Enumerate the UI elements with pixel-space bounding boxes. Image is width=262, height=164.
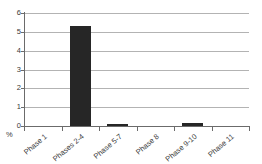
y-axis-tick-mark — [21, 13, 25, 14]
y-axis-tick-mark — [21, 32, 25, 33]
y-axis-tick-label: 6 — [3, 9, 21, 17]
y-axis-tick-mark — [21, 88, 25, 89]
y-axis-tick-label: 0 — [3, 122, 21, 130]
x-axis-tick-label: Phases 2-4 — [51, 132, 86, 163]
bar-slot — [212, 13, 250, 126]
bar-chart: 0123456 Phase 1Phases 2-4Phase 5-7Phase … — [0, 0, 262, 164]
bar-slot — [137, 13, 175, 126]
bar-series — [24, 13, 249, 126]
y-axis-tick-label: 5 — [3, 28, 21, 36]
x-axis-tick-mark — [137, 127, 138, 131]
y-axis-tick-label: 1 — [3, 103, 21, 111]
x-axis-tick-mark — [99, 127, 100, 131]
y-axis-tick-label: 3 — [3, 66, 21, 74]
x-axis-tick-mark — [212, 127, 213, 131]
x-axis-tick-label: Phase 1 — [22, 132, 49, 157]
x-axis-tick-label: Phase 9-10 — [163, 132, 198, 164]
y-axis-tick-mark — [21, 70, 25, 71]
y-axis-tick-labels: 0123456 — [0, 0, 21, 164]
x-axis-tick-mark — [174, 127, 175, 131]
x-axis-tick-label: Phase 8 — [134, 132, 161, 157]
y-axis-tick-mark — [21, 51, 25, 52]
y-axis-tick-label: 4 — [3, 47, 21, 55]
bar — [70, 26, 91, 126]
y-axis-tick-label: 2 — [3, 84, 21, 92]
x-axis-tick-mark — [249, 127, 250, 131]
bar-slot — [62, 13, 100, 126]
x-axis-tick-label: Phase 5-7 — [92, 132, 124, 161]
bar-slot — [174, 13, 212, 126]
y-axis-unit-label: % — [6, 130, 13, 139]
x-axis-tick-label: Phase 11 — [206, 132, 236, 159]
x-axis-tick-mark — [62, 127, 63, 131]
bar-slot — [24, 13, 62, 126]
x-axis-tick-mark — [24, 127, 25, 131]
x-axis-tick-labels: Phase 1Phases 2-4Phase 5-7Phase 8Phase 9… — [24, 126, 249, 164]
bar-slot — [99, 13, 137, 126]
y-axis-tick-mark — [21, 107, 25, 108]
